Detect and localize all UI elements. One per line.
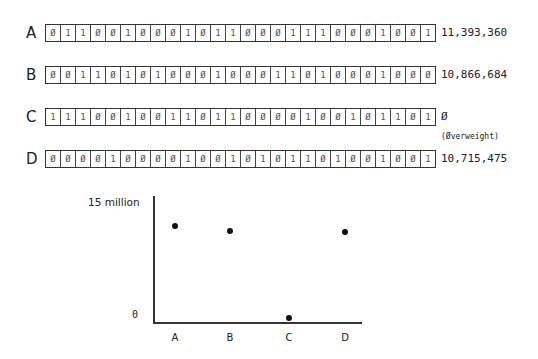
x-label-d: D <box>338 332 352 343</box>
data-point-a <box>172 223 178 229</box>
y-axis-zero-label: 0 <box>132 309 138 320</box>
x-label-c: C <box>282 332 296 343</box>
x-label-a: A <box>168 332 182 343</box>
data-point-c <box>286 315 292 321</box>
x-axis <box>153 322 362 324</box>
x-label-b: B <box>223 332 237 343</box>
y-axis-max-label: 15 million <box>88 196 140 208</box>
value-chart: 15 million 0 ABCD <box>0 0 538 359</box>
data-point-d <box>342 229 348 235</box>
y-axis <box>153 196 155 323</box>
data-point-b <box>227 228 233 234</box>
